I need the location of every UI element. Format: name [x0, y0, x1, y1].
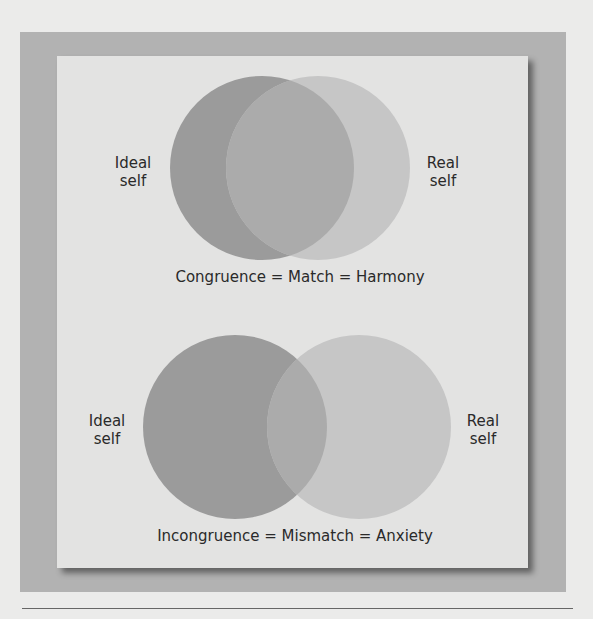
- real-self-label-bottom-line1: Real: [458, 412, 508, 430]
- ideal-self-label-bottom: Ideal self: [82, 412, 132, 448]
- congruence-venn: [170, 76, 410, 260]
- ideal-self-label-top: Ideal self: [108, 154, 158, 190]
- incongruence-venn: [143, 335, 451, 519]
- incongruence-caption: Incongruence = Mismatch = Anxiety: [130, 527, 460, 545]
- real-self-label-bottom-line2: self: [458, 430, 508, 448]
- real-self-label-top-line2: self: [418, 172, 468, 190]
- real-self-label-top-line1: Real: [418, 154, 468, 172]
- real-self-label-top: Real self: [418, 154, 468, 190]
- ideal-self-label-bottom-line2: self: [82, 430, 132, 448]
- real-self-label-bottom: Real self: [458, 412, 508, 448]
- ideal-self-label-top-line1: Ideal: [108, 154, 158, 172]
- ideal-self-label-top-line2: self: [108, 172, 158, 190]
- horizontal-rule: [22, 608, 573, 609]
- congruence-caption: Congruence = Match = Harmony: [150, 268, 450, 286]
- ideal-self-label-bottom-line1: Ideal: [82, 412, 132, 430]
